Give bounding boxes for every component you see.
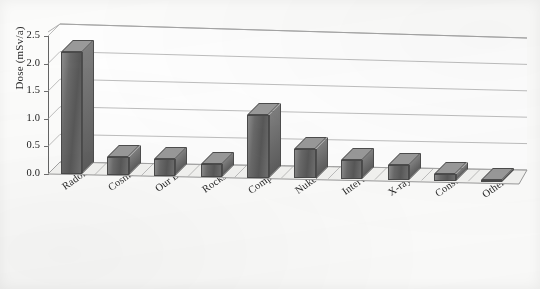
bar-front-face — [247, 115, 268, 178]
bar-front-face — [61, 52, 82, 174]
bar-side-face — [82, 40, 94, 174]
bar-side-face — [269, 103, 281, 178]
dose-bar-chart: Dose (mSv/a) 0.00.51.01.52.02.5 RadonCos… — [0, 0, 540, 289]
bar-front-face — [388, 165, 409, 180]
bar-front-face — [107, 157, 128, 175]
bar-front-face — [341, 160, 362, 179]
bars-layer — [0, 0, 540, 289]
bar-front-face — [481, 180, 502, 182]
bar-front-face — [154, 159, 175, 176]
bar-front-face — [201, 164, 222, 177]
bar-front-face — [434, 174, 455, 181]
bar-front-face — [294, 149, 315, 179]
